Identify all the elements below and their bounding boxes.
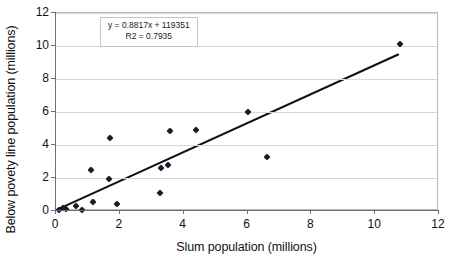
y-tick-label: 6 <box>23 104 49 118</box>
regression-annotation-box: y = 0.8817x + 119351 R2 = 0.7935 <box>100 17 198 47</box>
gridline-horizontal <box>56 178 437 179</box>
y-tick-label: 10 <box>23 38 49 52</box>
r-squared-value: R2 = 0.7935 <box>108 31 190 42</box>
gridline-horizontal <box>56 13 437 14</box>
y-tick-mark <box>51 111 55 112</box>
x-tick-label: 4 <box>179 217 186 231</box>
y-tick-label: 0 <box>23 203 49 217</box>
gridline-horizontal <box>56 79 437 80</box>
x-tick-mark <box>247 210 248 214</box>
x-tick-label: 8 <box>307 217 314 231</box>
x-tick-mark <box>438 210 439 214</box>
y-tick-mark <box>51 12 55 13</box>
x-tick-mark <box>55 210 56 214</box>
x-tick-label: 0 <box>52 217 59 231</box>
x-tick-label: 12 <box>431 217 444 231</box>
y-tick-mark <box>51 78 55 79</box>
x-tick-label: 10 <box>367 217 380 231</box>
x-tick-mark <box>183 210 184 214</box>
y-axis-line <box>55 12 56 211</box>
x-tick-mark <box>310 210 311 214</box>
y-tick-mark <box>51 177 55 178</box>
y-tick-label: 4 <box>23 137 49 151</box>
y-tick-mark <box>51 45 55 46</box>
y-axis-ticks: 024681012 <box>0 0 49 267</box>
y-tick-label: 8 <box>23 71 49 85</box>
scatter-chart: Below povety line population (millions) … <box>0 0 458 267</box>
x-axis-title: Slum population (millions) <box>55 240 438 254</box>
x-tick-label: 2 <box>115 217 122 231</box>
x-tick-mark <box>119 210 120 214</box>
y-tick-mark <box>51 144 55 145</box>
y-tick-label: 12 <box>23 5 49 19</box>
x-tick-mark <box>374 210 375 214</box>
x-tick-label: 6 <box>243 217 250 231</box>
y-tick-label: 2 <box>23 170 49 184</box>
gridline-horizontal <box>56 145 437 146</box>
regression-equation: y = 0.8817x + 119351 <box>108 20 190 31</box>
